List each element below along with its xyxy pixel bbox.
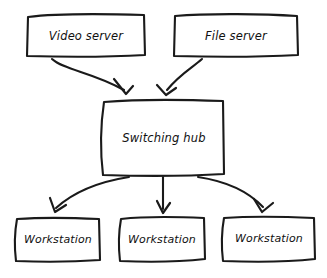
edge-file-server-to-switching-hub [157, 59, 202, 95]
edge-switching-hub-to-workstation-left [50, 177, 129, 212]
edge-switching-hub-to-workstation-right [198, 177, 273, 212]
network-diagram: Video server File server Switching hub W… [0, 0, 327, 278]
switching-hub-label: Switching hub [122, 131, 205, 145]
video-server-label: Video server [49, 29, 124, 43]
edge-video-server-to-switching-hub [52, 59, 133, 94]
diagram-canvas: Video server File server Switching hub W… [0, 0, 327, 278]
file-server-label: File server [205, 29, 268, 43]
node-workstation-center[interactable]: Workstation [119, 217, 205, 262]
node-workstation-right[interactable]: Workstation [222, 217, 315, 262]
edge-hub-to-ws-right-line [198, 177, 263, 207]
workstation-center-label: Workstation [128, 233, 196, 246]
workstation-left-label: Workstation [24, 233, 92, 246]
node-workstation-left[interactable]: Workstation [15, 218, 100, 262]
edge-video-to-hub-line [52, 59, 124, 90]
workstation-right-label: Workstation [235, 232, 303, 245]
edge-hub-to-ws-left-line [56, 177, 129, 208]
node-video-server[interactable]: Video server [27, 14, 145, 57]
edge-file-to-hub-line [167, 59, 202, 90]
edge-switching-hub-to-workstation-center [157, 177, 170, 213]
node-switching-hub[interactable]: Switching hub [101, 100, 224, 176]
node-file-server[interactable]: File server [174, 14, 298, 57]
